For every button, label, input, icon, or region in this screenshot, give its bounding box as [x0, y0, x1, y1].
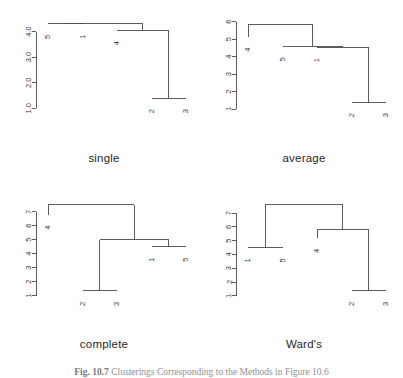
- dendrogram-leaf-label: 4: [44, 226, 53, 230]
- y-axis-tick-label: 4.0: [25, 26, 34, 36]
- y-axis-tick-label: 4: [25, 252, 34, 256]
- panel-title-average: average: [208, 152, 400, 164]
- y-axis-tick-label: 3: [25, 266, 34, 270]
- dendrogram-leaf-label: 4: [313, 249, 322, 253]
- dendrogram-panel-complete: 123456742315: [8, 196, 200, 328]
- panel-title-wards: Ward's: [208, 338, 400, 350]
- y-axis-tick-label: 5: [225, 239, 234, 243]
- dendrogram-leaf-label: 2: [347, 302, 356, 306]
- dendrogram-leaf-label: 1: [147, 258, 156, 262]
- dendrogram-leaf-label: 5: [278, 57, 287, 61]
- y-axis-tick-label: 3: [225, 72, 234, 76]
- y-axis-tick-label: 1: [225, 107, 234, 111]
- y-axis-tick-label: 2: [225, 280, 234, 284]
- dendrogram-leaf-label: 4: [244, 47, 253, 51]
- dendrogram-leaf-label: 1: [313, 58, 322, 62]
- dendrogram-plot-average: 12345645123: [208, 14, 400, 142]
- y-axis-tick-label: 6: [225, 225, 234, 229]
- y-axis-tick-label: 5: [25, 238, 34, 242]
- panel-title-single: single: [8, 152, 200, 164]
- y-axis-tick-label: 1: [225, 294, 234, 298]
- y-axis-tick-label: 2: [25, 280, 34, 284]
- dendrogram-branches: [248, 205, 386, 291]
- dendrogram-leaf-label: 4: [113, 41, 122, 45]
- dendrogram-branches: [48, 24, 186, 98]
- y-axis-tick-label: 5: [225, 37, 234, 41]
- dendrogram-leaf-label: 2: [347, 113, 356, 117]
- figure-panel-grid: 1.02.03.04.051423single12345645123averag…: [0, 0, 403, 378]
- dendrogram-leaf-label: 5: [182, 258, 191, 262]
- dendrogram-panel-single: 1.02.03.04.051423: [8, 14, 200, 142]
- dendrogram-leaf-label: 3: [182, 109, 191, 113]
- panel-title-complete: complete: [8, 338, 200, 350]
- figure-caption: Fig. 10.7 Clusterings Corresponding to t…: [0, 366, 403, 378]
- y-axis-tick-label: 2.0: [25, 78, 34, 88]
- dendrogram-branches: [48, 205, 186, 291]
- figure-caption-label: Fig. 10.7: [74, 367, 109, 377]
- dendrogram-leaf-label: 3: [382, 302, 391, 306]
- dendrogram-leaf-label: 2: [78, 302, 87, 306]
- dendrogram-leaf-label: 5: [44, 35, 53, 39]
- dendrogram-branches: [248, 24, 386, 102]
- dendrogram-leaf-label: 1: [244, 258, 253, 262]
- dendrogram-plot-wards: 123456715423: [208, 196, 400, 328]
- figure-caption-text: Clusterings Corresponding to the Methods…: [111, 367, 328, 377]
- y-axis-tick-label: 6: [25, 224, 34, 228]
- dendrogram-leaf-label: 2: [147, 109, 156, 113]
- dendrogram-leaf-label: 1: [78, 35, 87, 39]
- dendrogram-plot-single: 1.02.03.04.051423: [8, 14, 200, 142]
- dendrogram-panel-wards: 123456715423: [208, 196, 400, 328]
- y-axis-tick-label: 7: [225, 211, 234, 215]
- y-axis-tick-label: 1.0: [25, 103, 34, 113]
- dendrogram-leaf-label: 3: [113, 302, 122, 306]
- y-axis-tick-label: 7: [25, 210, 34, 214]
- y-axis-tick-label: 6: [225, 20, 234, 24]
- dendrogram-plot-complete: 123456742315: [8, 196, 200, 328]
- dendrogram-leaf-label: 3: [382, 113, 391, 117]
- y-axis-tick-label: 3: [225, 266, 234, 270]
- y-axis-tick-label: 2: [225, 89, 234, 93]
- y-axis-tick-label: 4: [225, 55, 234, 59]
- y-axis-tick-label: 3.0: [25, 52, 34, 62]
- y-axis-tick-label: 1: [25, 294, 34, 298]
- y-axis-tick-label: 4: [225, 252, 234, 256]
- dendrogram-panel-average: 12345645123: [208, 14, 400, 142]
- dendrogram-leaf-label: 5: [278, 258, 287, 262]
